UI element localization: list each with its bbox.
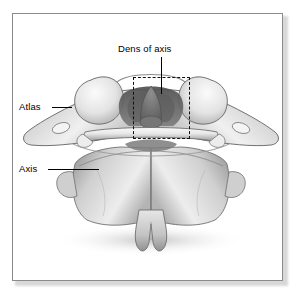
label-dens-of-axis: Dens of axis [118,43,171,54]
leader-line-atlas [52,107,72,108]
label-axis: Axis [19,163,37,174]
label-atlas: Atlas [19,101,41,112]
leader-line-axis [48,169,99,170]
leader-line-dens [161,57,162,94]
figure-root: Dens of axis Atlas Axis [0,0,293,298]
